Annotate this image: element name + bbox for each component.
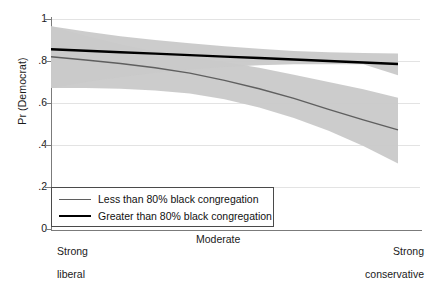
legend-line-thick-icon (59, 215, 91, 217)
x-tick-left-line1: Strong (57, 246, 88, 258)
legend-label-greater-than-80: Greater than 80% black congregation (98, 211, 272, 222)
x-tick-label-strong-liberal: Strong liberal (57, 234, 88, 282)
x-tick-left-line2: liberal (57, 269, 88, 281)
x-tick-label-moderate: Moderate (196, 234, 240, 246)
legend-item-greater-than-80: Greater than 80% black congregation (59, 207, 272, 225)
x-tick-label-strong-conservative: Strong conservative (320, 234, 424, 282)
chart-legend: Less than 80% black congregation Greater… (51, 187, 274, 227)
legend-line-thin-icon (59, 199, 91, 200)
x-tick-right-line1: Strong (320, 246, 424, 258)
x-tick-right-line2: conservative (320, 269, 424, 281)
legend-label-less-than-80: Less than 80% black congregation (98, 194, 259, 205)
legend-item-less-than-80: Less than 80% black congregation (59, 190, 259, 208)
